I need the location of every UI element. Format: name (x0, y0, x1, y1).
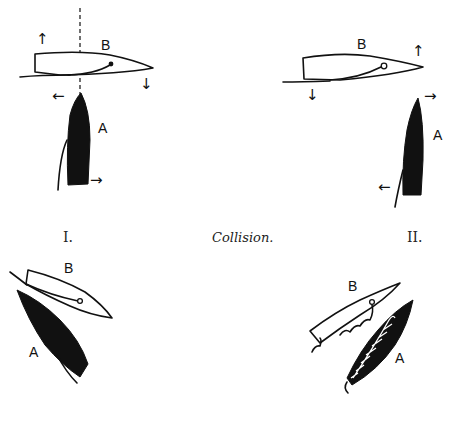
arrow-up-icon: ↑ (36, 30, 49, 48)
boat-b-label: B (64, 260, 73, 276)
boat-a-wake (345, 382, 348, 393)
boat-a-label: A (395, 350, 405, 366)
arrow-left-icon: ← (378, 178, 391, 196)
arrow-right-icon: → (424, 87, 437, 105)
boat-a-wake (395, 170, 403, 207)
boat-b-mast (381, 63, 387, 69)
boat-a-label: A (29, 344, 39, 360)
boat-b-label: B (357, 36, 366, 52)
boat-b-mast (370, 300, 375, 305)
boat-b-wake (283, 81, 330, 82)
panel-1: B A ↑ ↓ ← → (20, 8, 153, 190)
panel-2: B A ↑ ↓ → ← (283, 36, 443, 207)
boat-b-label: B (348, 278, 357, 294)
boat-b-label: B (101, 37, 110, 53)
panel-4: B A (310, 278, 413, 393)
arrow-right-icon: → (90, 171, 103, 189)
arrow-left-icon: ← (52, 87, 65, 105)
panel-3: B A (10, 260, 112, 383)
boat-b-wake (10, 272, 27, 285)
figure-caption: Collision. (212, 230, 273, 245)
arrow-down-icon: ↓ (306, 86, 319, 104)
collision-diagram: B A ↑ ↓ ← → B A ↑ ↓ → ← I. Collision. II… (0, 0, 458, 421)
boat-b-mast (109, 62, 114, 67)
boat-b-hull (303, 54, 423, 80)
panel-2-label: II. (407, 229, 423, 245)
arrow-up-icon: ↑ (412, 42, 425, 60)
panel-1-label: I. (63, 229, 73, 245)
boat-b-mast (78, 299, 83, 304)
boat-b-wake (20, 75, 70, 77)
boat-a-label: A (98, 120, 108, 136)
boat-a-hull (67, 93, 90, 185)
boat-a-label: A (433, 127, 443, 143)
arrow-down-icon: ↓ (140, 75, 153, 93)
caption-row: I. Collision. II. (63, 229, 423, 245)
boat-a-wake (58, 140, 67, 190)
boat-a-hull (403, 98, 423, 195)
